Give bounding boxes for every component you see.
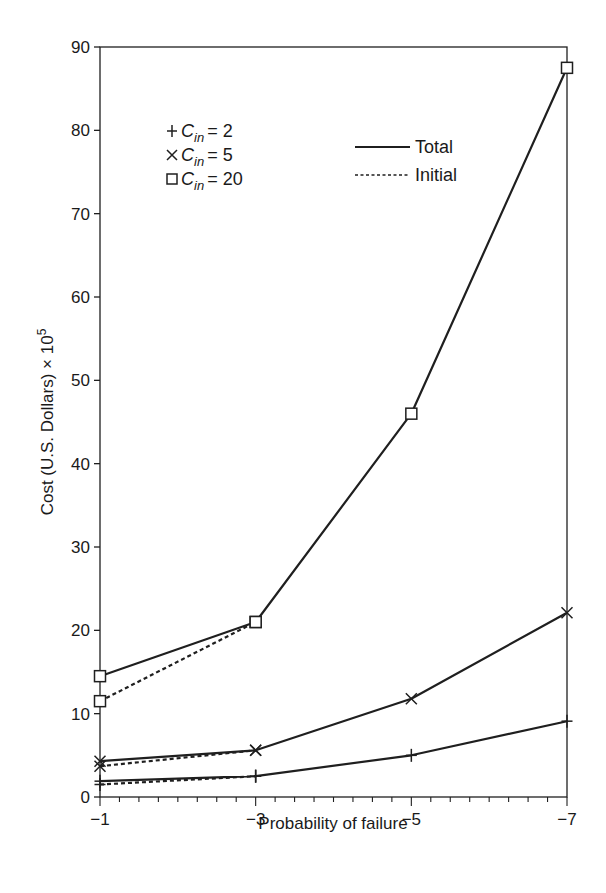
x-tick-label: −1 xyxy=(90,810,109,829)
cross-marker-icon xyxy=(406,693,417,704)
y-tick-label: 40 xyxy=(71,455,90,474)
square-marker-icon xyxy=(406,408,417,419)
x-tick-label: −7 xyxy=(557,810,576,829)
y-tick-label: 0 xyxy=(81,788,90,807)
square-marker-icon xyxy=(95,696,106,707)
y-tick-label: 30 xyxy=(71,538,90,557)
square-marker-icon xyxy=(167,174,177,184)
legend: Cin= 2Cin= 5Cin= 20TotalInitial xyxy=(167,121,457,193)
y-tick-label: 90 xyxy=(71,38,90,57)
y-axis-title-exponent: 5 xyxy=(35,328,49,335)
total-cost-line xyxy=(100,613,567,761)
y-tick-label: 70 xyxy=(71,205,90,224)
total-cost-line xyxy=(100,721,567,781)
square-marker-icon xyxy=(95,671,106,682)
y-axis-title: Cost (U.S. Dollars) × 105 xyxy=(35,328,57,515)
total-cost-line xyxy=(100,68,567,676)
plot-frame xyxy=(100,47,567,797)
legend-line-label: Total xyxy=(415,137,453,157)
y-tick-label: 60 xyxy=(71,288,90,307)
square-marker-icon xyxy=(250,617,261,628)
x-axis-title: Probability of failure xyxy=(258,814,407,833)
y-tick-label: 50 xyxy=(71,371,90,390)
y-axis-title-main: Cost (U.S. Dollars) × 10 xyxy=(38,335,57,515)
plot-border xyxy=(100,47,567,797)
cross-marker-icon xyxy=(167,150,177,160)
y-tick-label: 10 xyxy=(71,705,90,724)
line-chart: 0102030405060708090 −1−3−5−7 Cin= 2Cin= … xyxy=(0,0,606,893)
y-axis: 0102030405060708090 xyxy=(71,38,100,807)
legend-line-label: Initial xyxy=(415,165,457,185)
legend-marker-label: Cin= 5 xyxy=(181,145,233,169)
square-marker-icon xyxy=(562,62,573,73)
data-series xyxy=(95,62,573,791)
legend-marker-label: Cin= 20 xyxy=(181,169,243,193)
y-tick-label: 20 xyxy=(71,621,90,640)
legend-marker-label: Cin= 2 xyxy=(181,121,233,145)
y-tick-label: 80 xyxy=(71,121,90,140)
initial-cost-line xyxy=(100,622,256,701)
